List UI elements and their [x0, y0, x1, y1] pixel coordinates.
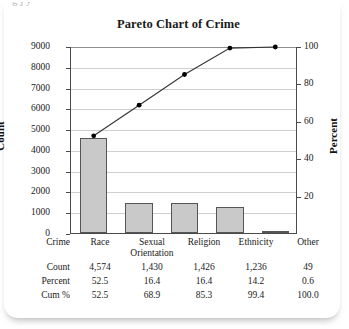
table-cell: 16.4 [126, 273, 178, 287]
y-axis-tick [66, 234, 70, 235]
y-axis-tick-label: 1000 [31, 208, 50, 218]
table-cell: 14.2 [230, 273, 282, 287]
data-point-marker [273, 45, 278, 50]
table-cell: 1,236 [230, 259, 282, 273]
table-cell: 16.4 [178, 273, 230, 287]
category-label: Sexual Orientation [126, 236, 178, 259]
cumulative-line-path [94, 47, 276, 136]
table-cell: 68.9 [126, 287, 178, 301]
table-cell: 85.3 [178, 287, 230, 301]
category-label: Religion [178, 236, 230, 259]
table-row-label: Percent [14, 273, 74, 287]
table-cell: 0.6 [282, 273, 334, 287]
clipped-caption-above: g j y [12, 2, 342, 8]
pareto-data-table: CrimeRaceSexual OrientationReligionEthni… [14, 236, 334, 301]
data-point-marker [91, 133, 96, 138]
y2-axis-tick-label: 80 [304, 79, 314, 89]
y-axis-tick [66, 109, 70, 110]
y-axis-tick-label: 7000 [31, 84, 50, 94]
table-cell: 4,574 [74, 259, 126, 273]
y-axis-tick-label: 2000 [31, 187, 50, 197]
data-point-marker [228, 46, 233, 51]
table-row: CrimeRaceSexual OrientationReligionEthni… [14, 236, 334, 259]
y-axis-tick [66, 213, 70, 214]
cumulative-percent-line [71, 47, 298, 234]
y-axis-tick [66, 192, 70, 193]
y2-axis-tick-label: 20 [304, 192, 314, 202]
pareto-data-table-body: CrimeRaceSexual OrientationReligionEthni… [14, 236, 334, 301]
y-axis-tick [66, 68, 70, 69]
figure-card: g j y Pareto Chart of Crime Count Percen… [4, 2, 340, 318]
y2-axis-tick [297, 122, 301, 123]
y-axis-tick [66, 151, 70, 152]
y-axis-tick-label: 3000 [31, 167, 50, 177]
table-cell: 1,430 [126, 259, 178, 273]
cumulative-line-markers [91, 45, 277, 139]
chart-title: Pareto Chart of Crime [4, 17, 349, 32]
table-row-label: Count [14, 259, 74, 273]
data-point-marker [137, 103, 142, 108]
table-cell: 99.4 [230, 287, 282, 301]
table-cell: 100.0 [282, 287, 334, 301]
y2-axis-tick [297, 197, 301, 198]
table-row-label: Crime [14, 236, 74, 259]
y-axis-title-percent: Percent [327, 118, 339, 154]
y-axis-tick [66, 47, 70, 48]
y-axis-tick [66, 89, 70, 90]
y-axis-tick-label: 9000 [31, 42, 50, 52]
table-row: Percent52.516.416.414.20.6 [14, 273, 334, 287]
table-row: Count4,5741,4301,4261,23649 [14, 259, 334, 273]
table-cell: 52.5 [74, 287, 126, 301]
y-axis-tick-label: 5000 [31, 125, 50, 135]
y-axis-tick [66, 172, 70, 173]
y-axis-title-count: Count [0, 121, 6, 150]
y-axis-tick-label: 8000 [31, 63, 50, 73]
y2-axis-tick [297, 84, 301, 85]
y2-axis-tick [297, 47, 301, 48]
y-axis-tick [66, 130, 70, 131]
category-label: Ethnicity [230, 236, 282, 259]
table-cell: 1,426 [178, 259, 230, 273]
y2-axis-tick [297, 159, 301, 160]
table-row-label: Cum % [14, 287, 74, 301]
table-cell: 49 [282, 259, 334, 273]
table-cell: 52.5 [74, 273, 126, 287]
data-point-marker [182, 72, 187, 77]
y2-axis-tick-label: 100 [304, 42, 318, 52]
y2-axis-tick-label: 40 [304, 154, 314, 164]
y2-axis-tick-label: 60 [304, 117, 314, 127]
plot-area [70, 47, 297, 234]
table-row: Cum %52.568.985.399.4100.0 [14, 287, 334, 301]
category-label: Other [282, 236, 334, 259]
category-label: Race [74, 236, 126, 259]
y-axis-tick-label: 6000 [31, 104, 50, 114]
y-axis-tick-label: 4000 [31, 146, 50, 156]
